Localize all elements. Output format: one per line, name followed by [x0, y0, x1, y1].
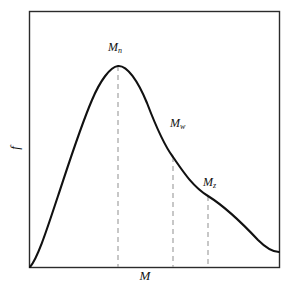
y-axis-label: f [7, 146, 23, 150]
curve-label-mz-symbol: M [203, 175, 213, 189]
curve-label-mn: Mn [108, 40, 122, 55]
curve-label-mz-subscript: z [213, 181, 216, 190]
plot-frame [30, 12, 280, 268]
curve-label-mn-subscript: n [118, 46, 122, 55]
curve-label-mz: Mz [203, 175, 216, 190]
curve-label-mn-symbol: M [108, 40, 118, 54]
curve-label-mw: Mw [170, 116, 185, 131]
x-axis-label: M [140, 268, 151, 284]
plot-area [0, 0, 297, 296]
curve-label-mw-subscript: w [180, 122, 185, 131]
molecular-weight-distribution-figure: Mn Mw Mz M f [0, 0, 297, 296]
curve-label-mw-symbol: M [170, 116, 180, 130]
